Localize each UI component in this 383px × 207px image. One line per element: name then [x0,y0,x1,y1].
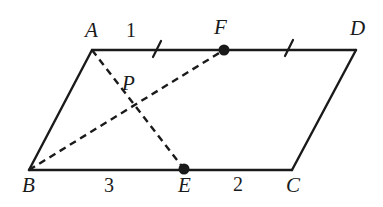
point-marker-F [219,45,230,56]
vertex-label-P: P [122,73,135,94]
tick-FD-icon [285,40,293,56]
point-markers [179,45,230,175]
segment-DC [292,50,356,170]
geometry-figure: A F D P B E C 1 3 2 [0,0,383,207]
vertex-label-D: D [350,18,365,39]
geometry-canvas [0,0,383,207]
vertex-label-F: F [214,17,227,38]
length-label-BE: 3 [104,175,114,195]
segment-AE [92,50,184,169]
length-label-AF: 1 [126,20,136,40]
vertex-label-C: C [286,175,300,196]
vertex-label-E: E [178,175,191,196]
length-label-EC: 2 [233,174,243,194]
vertex-label-B: B [22,175,35,196]
cevian-lines [29,50,224,170]
segment-BF [29,50,224,170]
vertex-label-A: A [85,20,98,41]
